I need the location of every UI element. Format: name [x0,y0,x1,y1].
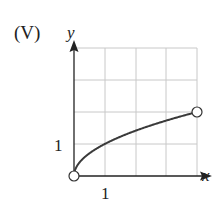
figure-label: (V) [14,22,40,44]
chart-figure: (V)yx11 [0,0,215,212]
grid [74,48,197,176]
x-axis-label: x [201,166,210,185]
axes [74,46,206,176]
y-tick-label: 1 [54,136,63,155]
x-tick-label: 1 [101,184,110,203]
open-point-start-icon [69,171,79,181]
y-axis-label: y [65,23,75,42]
open-point-end-icon [192,107,202,117]
